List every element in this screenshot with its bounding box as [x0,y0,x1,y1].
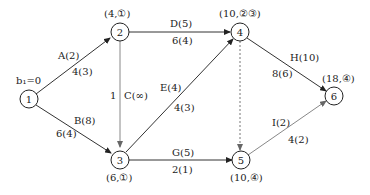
edge-3-4-flow: 4(3) [174,102,195,113]
edge-4-6-flow: 8(6) [272,68,293,79]
node-4-label: 4 [237,27,243,38]
node-3: 3 [111,151,129,169]
edge-2-3-name: C(∞) [124,90,148,101]
start-label: b₁=0 [16,75,41,86]
node-3-label: 3 [117,155,123,166]
edge-1-3-flow: 6(4) [56,128,77,139]
network-diagram: A(2) 4(3) B(8) 6(4) C(∞) 1 D(5) 6(4) E(4… [0,0,370,195]
edge-5-6-flow: 4(2) [288,134,309,145]
edge-5-6-name: I(2) [272,117,290,128]
edge-4-6 [247,38,326,91]
node-2-annotation: (4,①) [104,8,130,19]
node-4: 4 [231,23,249,41]
node-5-annotation: (10,④) [230,172,263,183]
node-6: 6 [325,87,343,105]
edge-3-5-name: G(5) [172,147,194,158]
node-4-annotation: (10,②③) [219,8,261,19]
edge-1-3-name: B(8) [74,115,96,126]
edge-4-6-name: H(10) [290,52,319,63]
node-2: 2 [111,23,129,41]
edge-2-3-flow: 1 [110,90,116,101]
node-5: 5 [232,151,250,169]
node-1-label: 1 [26,94,32,105]
edge-3-4-name: E(4) [160,82,182,93]
edge-1-2-name: A(2) [57,50,79,61]
node-6-annotation: (18,④) [322,73,355,84]
edge-2-4-flow: 6(4) [172,35,193,46]
edge-5-6 [248,101,326,155]
node-6-label: 6 [331,91,337,102]
edge-3-5-flow: 2(1) [172,164,193,175]
node-2-label: 2 [117,27,123,38]
edge-2-4-name: D(5) [170,18,192,29]
node-1: 1 [20,90,38,108]
edge-1-2-flow: 4(3) [72,66,93,77]
node-5-label: 5 [238,155,244,166]
node-3-annotation: (6,①) [106,172,132,183]
